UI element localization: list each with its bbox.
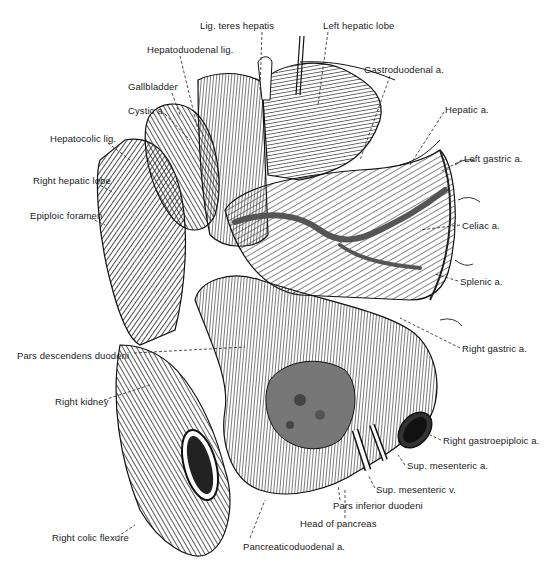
label-lig-teres-hepatis: Lig. teres hepatis: [200, 20, 274, 31]
label-right-kidney: Right kidney: [55, 396, 108, 407]
label-gallbladder: Gallbladder: [128, 81, 178, 92]
label-pancreaticoduodenal-a: Pancreaticoduodenal a.: [243, 541, 345, 552]
label-head-of-pancreas: Head of pancreas: [300, 518, 377, 529]
label-left-gastric-a: Left gastric a.: [464, 153, 523, 164]
label-epiploic-foramen: Epiploic foramen: [30, 210, 102, 221]
left-hepatic-lobe-shape: [262, 62, 395, 180]
pancreas-head-shape: [266, 361, 355, 448]
label-pars-descendens-duodeni: Pars descendens duodeni: [17, 350, 129, 361]
label-right-gastric-a: Right gastric a.: [462, 343, 527, 354]
colon-shape: [116, 345, 230, 556]
label-right-hepatic-lobe: Right hepatic lobe: [33, 175, 111, 186]
label-left-hepatic-lobe: Left hepatic lobe: [323, 20, 394, 31]
anatomy-illustration: [0, 0, 551, 585]
label-hepatocolic-lig: Hepatocolic lig.: [50, 133, 116, 144]
label-pars-inferior-duodeni: Pars inferior duodeni: [333, 500, 423, 511]
label-celiac-a: Celiac a.: [462, 220, 500, 231]
label-hepatoduodenal-lig: Hepatoduodenal lig.: [147, 44, 233, 55]
label-right-gastroepiploic-a: Right gastroepiploic a.: [443, 435, 539, 446]
label-sup-mesenteric-a: Sup. mesenteric a.: [407, 460, 488, 471]
label-cystic-a: Cystic a.: [128, 105, 165, 116]
label-splenic-a: Splenic a.: [460, 276, 503, 287]
label-sup-mesenteric-v: Sup. mesenteric v.: [376, 484, 456, 495]
label-right-colic-flexure: Right colic flexure: [52, 532, 129, 543]
label-gastroduodenal-a: Gastroduodenal a.: [364, 64, 444, 75]
label-hepatic-a: Hepatic a.: [445, 104, 489, 115]
